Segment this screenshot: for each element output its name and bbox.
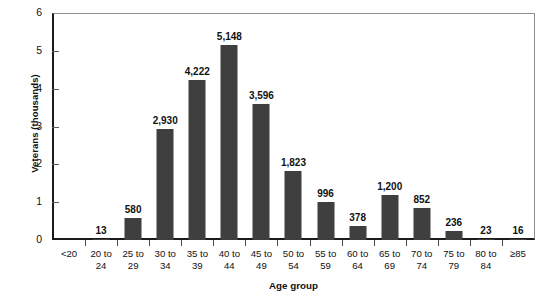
x-axis-tick [277, 240, 278, 246]
x-axis-tick-label: 30 to34 [155, 248, 176, 271]
bar[interactable] [445, 231, 462, 240]
bar-slot: 1,823 [277, 13, 309, 240]
x-axis-tick-label-line1: 40 to [219, 248, 240, 259]
bar-value-label: 580 [125, 205, 142, 215]
x-axis-tick-label: 35 to39 [187, 248, 208, 271]
bar[interactable] [125, 218, 142, 240]
bar[interactable] [93, 239, 110, 241]
x-axis-tick-label-line1: 35 to [187, 248, 208, 259]
bar-value-label: 1,823 [281, 158, 306, 168]
bar-value-label: 236 [445, 218, 462, 228]
bar[interactable] [157, 129, 174, 240]
x-axis-tick-label-line2: 79 [443, 260, 464, 272]
bar-slot: 5,148 [213, 13, 245, 240]
x-axis-tick-label: 20 to24 [90, 248, 111, 271]
bar-value-label: 378 [349, 213, 366, 223]
x-axis-tick-label: 55 to59 [315, 248, 336, 271]
bar[interactable] [381, 195, 398, 240]
y-axis-tick-label: 4 [18, 83, 42, 94]
x-axis-tick-label-line2: 49 [251, 260, 272, 272]
bar[interactable] [221, 45, 238, 240]
x-axis-tick-label-line1: 45 to [251, 248, 272, 259]
y-axis-tick-label: 0 [18, 234, 42, 245]
x-axis-tick [213, 240, 214, 246]
x-axis-tick-label-line2: 84 [475, 260, 496, 272]
x-axis-tick-label: 45 to49 [251, 248, 272, 271]
x-axis-tick-label: 75 to79 [443, 248, 464, 271]
x-axis-tick [117, 240, 118, 246]
x-axis-tick-label: ≥85 [510, 248, 526, 260]
bars-layer: 135802,9304,2225,1483,5961,8239963781,20… [53, 13, 534, 240]
bar-slot: 852 [406, 13, 438, 240]
x-axis-tick-label: <20 [61, 248, 77, 260]
x-axis-tick-label-line1: 55 to [315, 248, 336, 259]
bar-slot: 4,222 [181, 13, 213, 240]
bar-slot: 2,930 [149, 13, 181, 240]
bar[interactable] [413, 208, 430, 240]
x-axis-tick-label: 40 to44 [219, 248, 240, 271]
x-axis-tick-label-line1: 80 to [475, 248, 496, 259]
bar-value-label: 13 [96, 226, 107, 236]
x-axis-tick-label-line2: 34 [155, 260, 176, 272]
x-axis-tick [502, 240, 503, 246]
x-axis-tick [406, 240, 407, 246]
bar[interactable] [317, 202, 334, 240]
x-axis-tick-label-line2: 54 [283, 260, 304, 272]
x-axis-tick-label-line1: 70 to [411, 248, 432, 259]
bar-value-label: 2,930 [153, 116, 178, 126]
x-axis-tick [470, 240, 471, 246]
y-axis-tick-label: 6 [18, 7, 42, 18]
bar-value-label: 5,148 [217, 32, 242, 42]
x-axis-tick-label-line1: 50 to [283, 248, 304, 259]
y-axis-tick-label: 1 [18, 196, 42, 207]
y-axis-tick-label: 3 [18, 121, 42, 132]
bar-value-label: 1,200 [377, 182, 402, 192]
bar[interactable] [253, 104, 270, 240]
bar-value-label: 23 [480, 226, 491, 236]
x-axis-tick-label: 65 to69 [379, 248, 400, 271]
bar-slot: 3,596 [245, 13, 277, 240]
bar-chart: Veterans (thousands) 0123456 135802,9304… [0, 0, 546, 305]
x-axis-tick-label-line2: 39 [187, 260, 208, 272]
bar[interactable] [349, 226, 366, 240]
bar-value-label: 4,222 [185, 67, 210, 77]
x-axis-tick-label-line1: 60 to [347, 248, 368, 259]
x-axis-tick-label: 25 to29 [122, 248, 143, 271]
x-axis-tick-label-line2: 44 [219, 260, 240, 272]
bar[interactable] [285, 171, 302, 240]
x-axis-tick-label-line2: 69 [379, 260, 400, 272]
y-axis-tick-label: 2 [18, 158, 42, 169]
x-axis-tick-label-line1: 75 to [443, 248, 464, 259]
y-axis-tick-label: 5 [18, 45, 42, 56]
x-axis-tick [181, 240, 182, 246]
x-axis-tick [374, 240, 375, 246]
bar-slot: 236 [438, 13, 470, 240]
bar-value-label: 3,596 [249, 91, 274, 101]
x-axis-tick-label-line2: 64 [347, 260, 368, 272]
x-axis-tick-label: 80 to84 [475, 248, 496, 271]
x-axis-tick-label: 60 to64 [347, 248, 368, 271]
bar-value-label: 996 [317, 189, 334, 199]
x-axis-tick-label: 70 to74 [411, 248, 432, 271]
x-axis-tick [342, 240, 343, 246]
bar-slot: 16 [502, 13, 534, 240]
bar-slot: 378 [342, 13, 374, 240]
bar-slot: 1,200 [374, 13, 406, 240]
x-axis-tick-label-line1: <20 [61, 248, 77, 259]
bar-slot: 23 [470, 13, 502, 240]
bar-slot [53, 13, 85, 240]
x-axis-tick-label-line1: 20 to [90, 248, 111, 259]
x-axis-title: Age group [52, 280, 535, 291]
bar-slot: 996 [310, 13, 342, 240]
bar[interactable] [509, 239, 526, 241]
x-axis-tick [310, 240, 311, 246]
bar-slot: 580 [117, 13, 149, 240]
bar-value-label: 852 [413, 195, 430, 205]
bar[interactable] [477, 239, 494, 241]
x-axis-tick-label-line2: 29 [122, 260, 143, 272]
bar[interactable] [189, 80, 206, 240]
x-axis-tick-label-line2: 59 [315, 260, 336, 272]
x-axis-tick [245, 240, 246, 246]
bar-slot: 13 [85, 13, 117, 240]
x-axis-tick-label-line2: 24 [90, 260, 111, 272]
